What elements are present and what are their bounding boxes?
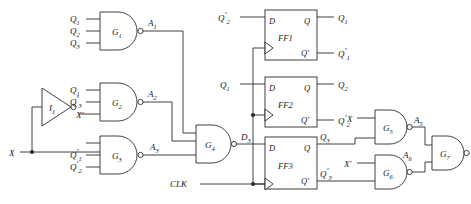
logic-circuit-diagram: G1 Q1 Q2 Q3 A1 I1 X′ G2 Q1 (0, 0, 471, 204)
flipflop-ff3: D Q Q' FF3 (265, 137, 317, 190)
signal-a1-label: A1 (147, 18, 157, 30)
flipflop-ff2: D Q Q' FF2 (265, 77, 317, 127)
signal-d3-label: D3 (240, 132, 252, 144)
ff2-q-pin-label: Q (304, 83, 310, 93)
ff3-name-label: FF3 (277, 161, 293, 171)
gate-g7: G7 (432, 136, 469, 170)
ff3-q-output-label: Q3 (320, 132, 331, 144)
ff3-qbar-output-label: Q′3 (320, 166, 332, 181)
g1-input-3-label: Q3 (70, 38, 81, 50)
signal-xprime-label: X′ (75, 110, 84, 120)
input-clk-label: CLK (170, 179, 188, 189)
ff1-q-pin-label: Q (304, 16, 310, 26)
g1-input-2-label: Q2 (70, 26, 81, 38)
g6-input-xprime-label: X′ (343, 159, 352, 169)
g2-input-2-label: Q′3 (70, 94, 82, 109)
ff3-d-pin-label: D (268, 143, 276, 153)
ff2-q-output-label: Q2 (338, 80, 349, 92)
g5-input-x-label: X (346, 114, 353, 124)
gate-g3: G3 (86, 136, 143, 174)
ff2-name-label: FF2 (277, 100, 293, 110)
ff1-q-output-label: Q1 (338, 13, 348, 25)
gate-g4: G4 (196, 125, 237, 163)
gate-g6: G6 (357, 155, 412, 189)
ff2-d-pin-label: D (268, 83, 276, 93)
signal-a6-label: A6 (402, 150, 413, 162)
junction-x (30, 150, 34, 154)
ff1-qbar-pin-label: Q' (301, 48, 309, 58)
input-x-label: X (8, 148, 15, 158)
ff2-qbar-pin-label: Q' (301, 115, 309, 125)
signal-a2-label: A2 (147, 89, 158, 101)
ff2-d-input-label: Q1 (220, 80, 230, 92)
ff3-qbar-pin-label: Q' (301, 176, 309, 186)
signal-a5-label: A5 (413, 115, 424, 127)
gate-g1: G1 (86, 12, 143, 50)
gate-g5: G5 (357, 110, 412, 144)
ff1-d-input-label: Q′2 (218, 10, 230, 25)
flipflop-ff1: D Q Q' FF1 (265, 10, 317, 60)
ff1-qbar-output-label: Q′1 (338, 46, 350, 61)
ff1-name-label: FF1 (277, 33, 293, 43)
g1-input-1-label: Q1 (70, 14, 80, 26)
gate-g2: G2 (79, 83, 143, 121)
ff3-q-pin-label: Q (304, 143, 310, 153)
signal-a3-label: A3 (149, 142, 160, 154)
ff1-d-pin-label: D (268, 16, 276, 26)
